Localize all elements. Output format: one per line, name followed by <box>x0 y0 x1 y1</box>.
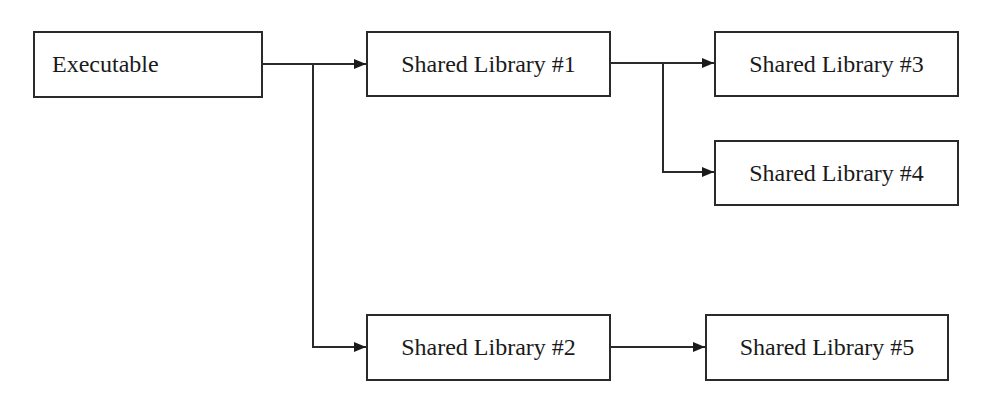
node-shared-library-4: Shared Library #4 <box>714 140 959 206</box>
node-label: Shared Library #5 <box>740 334 915 361</box>
node-shared-library-1: Shared Library #1 <box>366 31 611 97</box>
node-label: Executable <box>52 51 159 78</box>
node-label: Shared Library #3 <box>749 51 924 78</box>
node-shared-library-2: Shared Library #2 <box>366 314 611 381</box>
node-executable: Executable <box>33 31 263 98</box>
node-shared-library-5: Shared Library #5 <box>705 314 949 381</box>
node-shared-library-3: Shared Library #3 <box>714 31 959 97</box>
node-label: Shared Library #4 <box>749 160 924 187</box>
node-label: Shared Library #1 <box>401 51 576 78</box>
edge-sl1-sl4 <box>663 63 714 172</box>
node-label: Shared Library #2 <box>401 334 576 361</box>
edge-exe-sl2 <box>313 64 366 347</box>
